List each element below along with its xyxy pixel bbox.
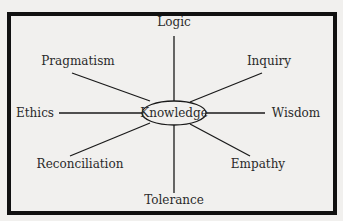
connector-empathy <box>190 124 250 156</box>
node-label-empathy: Empathy <box>231 157 286 171</box>
center-node-label: Knowledge <box>140 106 208 120</box>
node-label-wisdom: Wisdom <box>272 106 321 120</box>
node-label-inquiry: Inquiry <box>247 54 291 68</box>
node-label-ethics: Ethics <box>16 106 54 120</box>
node-label-logic: Logic <box>157 15 191 29</box>
node-label-pragmatism: Pragmatism <box>41 54 115 68</box>
connector-reconciliation <box>70 123 150 156</box>
connector-inquiry <box>190 73 262 102</box>
node-label-tolerance: Tolerance <box>144 193 204 207</box>
node-label-reconciliation: Reconciliation <box>37 157 124 171</box>
knowledge-mind-map: Knowledge LogicInquiryWisdomEmpathyToler… <box>0 0 343 221</box>
connector-pragmatism <box>72 73 150 101</box>
